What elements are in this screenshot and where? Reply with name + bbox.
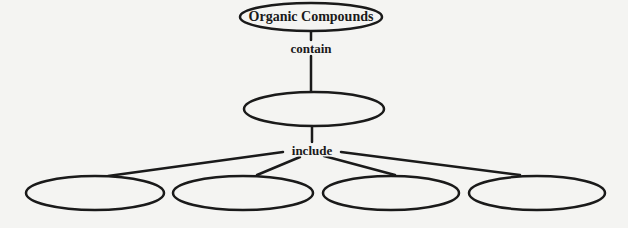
concept-map: Organic Compounds contain include	[0, 0, 628, 228]
node-middle-blank	[244, 92, 384, 126]
link-label-include: include	[290, 144, 334, 157]
connector-include-leaf-1	[108, 152, 283, 176]
node-leaf-1-blank	[26, 176, 164, 210]
node-leaf-3-blank	[323, 176, 459, 210]
connector-include-leaf-4	[341, 152, 520, 175]
connector-include-leaf-3	[324, 156, 395, 175]
connector-include-leaf-2	[257, 157, 300, 175]
root-node-label: Organic Compounds	[247, 10, 376, 24]
concept-map-graphics	[0, 0, 628, 228]
link-label-contain: contain	[288, 42, 333, 55]
node-leaf-2-blank	[173, 176, 313, 210]
node-leaf-4-blank	[469, 176, 605, 210]
